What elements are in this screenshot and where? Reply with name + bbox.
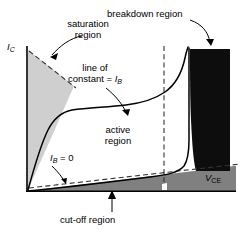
saturation-arrowhead	[50, 53, 58, 60]
y-axis-label-sub: C	[10, 46, 15, 53]
saturation-region-label: saturation region	[52, 18, 124, 40]
saturation-region-label-line1: saturation	[52, 18, 124, 29]
active-region-label: active region	[92, 124, 144, 146]
breakdown-leader-arrow	[190, 20, 210, 42]
constant-ib-annotation: line of constant = IB	[52, 62, 138, 87]
constant-ib-line2-prefix: constant =	[68, 73, 115, 84]
constant-ib-subscript: B	[117, 78, 122, 85]
x-axis-label: VCE	[205, 172, 221, 186]
active-region-label-line2: region	[92, 135, 144, 146]
ib-zero-arrowhead	[61, 178, 67, 184]
cutoff-region-label-line1: cut-off region	[60, 214, 115, 225]
breakdown-arrowhead	[206, 39, 214, 46]
bjt-characteristics-figure: IC VCE saturation region breakdown regio…	[0, 0, 242, 235]
bottom-gap-notch	[162, 183, 167, 190]
x-axis-label-sub: CE	[211, 177, 221, 184]
constant-ib-line1: line of	[52, 62, 138, 73]
y-axis-label: IC	[7, 41, 15, 55]
breakdown-region-label-line1: breakdown region	[107, 8, 183, 19]
breakdown-region-label: breakdown region	[107, 8, 183, 19]
cutoff-region-label: cut-off region	[60, 214, 115, 225]
breakdown-region-shape	[190, 49, 230, 171]
active-region-label-line1: active	[92, 124, 144, 135]
constant-ib-arrowhead	[122, 109, 130, 116]
ib-zero-equals: = 0	[57, 152, 73, 163]
ib-zero-leader-arrow	[52, 166, 64, 181]
constant-ib-leader-arrow	[106, 88, 126, 112]
saturation-region-label-line2: region	[52, 29, 124, 40]
ib-zero-annotation: IB = 0	[50, 152, 73, 166]
constant-ib-line2: constant = IB	[52, 73, 138, 87]
